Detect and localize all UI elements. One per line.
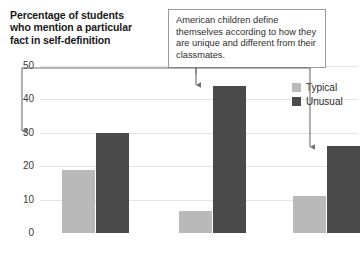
y-axis-tick-label: 10 — [8, 194, 34, 205]
legend-item-typical: Typical — [292, 82, 343, 93]
y-axis-tick-label: 20 — [8, 160, 34, 171]
bar-group — [62, 66, 129, 233]
y-axis-tick-label: 40 — [8, 93, 34, 104]
bar-typical — [62, 170, 95, 233]
legend-item-unusual: Unusual — [292, 96, 343, 107]
chart-axis-title: Percentage of students who mention a par… — [10, 9, 140, 46]
bar-unusual — [96, 133, 129, 233]
bar-chart: Percentage of students who mention a par… — [0, 0, 364, 266]
legend-swatch-typical — [292, 83, 301, 92]
legend-label-typical: Typical — [306, 82, 337, 93]
annotation-callout: American children define themselves acco… — [168, 9, 326, 68]
y-axis-tick-label: 30 — [8, 127, 34, 138]
bar-unusual — [213, 86, 246, 233]
y-axis-tick-label: 50 — [8, 60, 34, 71]
chart-legend: Typical Unusual — [292, 82, 343, 110]
y-axis-tick-label: 0 — [8, 227, 34, 238]
bar-typical — [293, 196, 326, 233]
bar-group — [179, 66, 246, 233]
bar-unusual — [327, 146, 360, 233]
legend-label-unusual: Unusual — [306, 96, 343, 107]
bar-typical — [179, 211, 212, 233]
legend-swatch-unusual — [292, 97, 301, 106]
